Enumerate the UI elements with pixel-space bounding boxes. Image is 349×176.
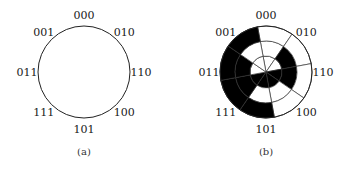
b-label-011: 011 xyxy=(199,66,220,79)
a-label-000: 000 xyxy=(74,9,95,22)
a-label-100: 100 xyxy=(114,106,135,119)
figure-canvas: 000010110100101111011001 (a) 00001011010… xyxy=(0,0,349,176)
b-label-000: 000 xyxy=(256,9,277,22)
a-label-001: 001 xyxy=(33,26,54,39)
a-label-011: 011 xyxy=(17,66,38,79)
plain-circle xyxy=(38,26,130,118)
caption-b: (b) xyxy=(259,146,273,157)
caption-a: (a) xyxy=(77,146,91,157)
a-label-101: 101 xyxy=(74,123,95,136)
a-label-110: 110 xyxy=(131,66,152,79)
b-label-101: 101 xyxy=(256,123,277,136)
b-label-110: 110 xyxy=(313,66,334,79)
b-label-001: 001 xyxy=(215,26,236,39)
b-label-100: 100 xyxy=(296,106,317,119)
b-label-111: 111 xyxy=(215,106,236,119)
a-label-010: 010 xyxy=(114,26,135,39)
a-label-111: 111 xyxy=(33,106,54,119)
figure-b: 000010110100101111011001 (b) xyxy=(199,9,334,157)
gray-code-wheel xyxy=(220,26,312,118)
b-label-010: 010 xyxy=(296,26,317,39)
figure-a: 000010110100101111011001 (a) xyxy=(17,9,152,157)
